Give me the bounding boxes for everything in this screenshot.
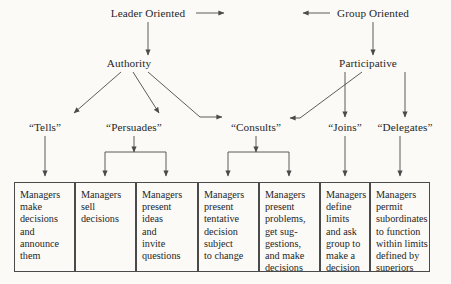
outcome-box: Managers present tentative decision subj…	[198, 182, 259, 272]
outcome-box: Managers permit subordinates to function…	[370, 182, 430, 272]
arrow-participative-to-consults	[290, 72, 362, 118]
outcome-box-text: Managers make decisions and announce the…	[20, 189, 74, 262]
node-delegates-label: “Delegates”	[377, 121, 432, 133]
node-participative: Participative	[339, 57, 397, 70]
node-leader-oriented-label: Leader Oriented	[111, 7, 186, 19]
outcome-box-text: Managers present ideas and invite questi…	[142, 189, 197, 262]
node-authority-label: Authority	[107, 57, 151, 69]
outcome-box-text: Managers present problems, get sug- gest…	[265, 189, 319, 272]
outcome-box: Managers sell decisions	[75, 182, 136, 272]
outcome-box-text: Managers permit subordinates to function…	[376, 189, 429, 272]
outcome-box: Managers present problems, get sug- gest…	[259, 182, 320, 272]
node-consults: “Consults”	[231, 121, 281, 134]
outcome-box: Managers define limits and ask group to …	[320, 182, 370, 272]
node-leader-oriented: Leader Oriented	[111, 7, 186, 20]
node-joins: “Joins”	[328, 121, 362, 134]
node-consults-label: “Consults”	[231, 121, 281, 133]
outcome-box-text: Managers define limits and ask group to …	[326, 189, 369, 272]
arrow-authority-to-tells	[74, 72, 121, 113]
node-participative-label: Participative	[339, 57, 397, 69]
node-tells-label: “Tells”	[29, 121, 61, 133]
outcome-box: Managers make decisions and announce the…	[14, 182, 75, 272]
outcome-box-text: Managers present tentative decision subj…	[204, 189, 258, 262]
outcome-box: Managers present ideas and invite questi…	[136, 182, 198, 272]
diagram-canvas: Leader Oriented Group Oriented Authority…	[0, 0, 451, 284]
node-joins-label: “Joins”	[328, 121, 362, 133]
node-delegates: “Delegates”	[377, 121, 432, 134]
bracket-persuades	[105, 152, 166, 155]
node-group-oriented-label: Group Oriented	[337, 7, 409, 19]
node-persuades: “Persuades”	[106, 121, 162, 134]
node-authority: Authority	[107, 57, 151, 70]
node-persuades-label: “Persuades”	[106, 121, 162, 133]
arrow-authority-to-consults	[148, 72, 222, 117]
outcome-box-text: Managers sell decisions	[81, 189, 135, 226]
node-group-oriented: Group Oriented	[337, 7, 409, 20]
node-tells: “Tells”	[29, 121, 61, 134]
bracket-consults	[228, 152, 289, 155]
